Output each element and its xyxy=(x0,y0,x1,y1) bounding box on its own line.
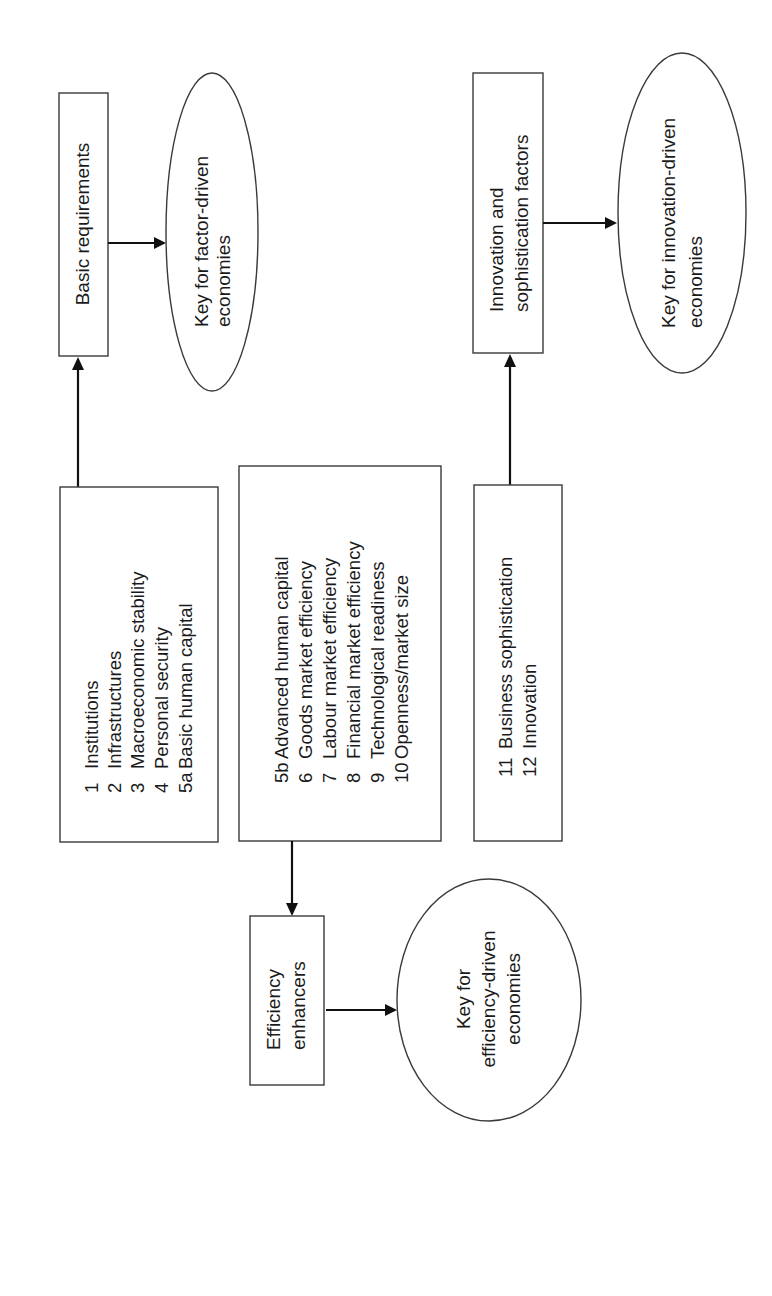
pillar-item: 11Business sophistication xyxy=(495,557,516,777)
pillar-item: 5aBasic human capital xyxy=(175,603,196,793)
arrow-innovation-to-innovation-driven xyxy=(543,217,617,229)
pillar-item: 9Technological readiness xyxy=(367,562,388,783)
innovation-sophistication-box: Innovation and sophistication factors xyxy=(473,73,543,353)
pillar-item: 6Goods market efficiency xyxy=(295,560,316,783)
pillar-item: 10Openness/market size xyxy=(391,575,412,783)
pillars-innovation-box: 11Business sophistication 12Innovation xyxy=(474,485,562,841)
pillar-item: 4Personal security xyxy=(151,626,172,793)
efficiency-driven-line-2: efficiency-driven xyxy=(478,931,499,1068)
innovation-driven-line-2: economies xyxy=(685,236,706,328)
efficiency-driven-line-3: economies xyxy=(503,953,524,1045)
efficiency-box-line-1: Efficiency xyxy=(263,969,284,1050)
basic-requirements-label: Basic requirements xyxy=(72,143,93,306)
pillar-item: 5bAdvanced human capital xyxy=(271,556,292,783)
pillar-item: 7Labour market efficiency xyxy=(319,557,340,783)
innovation-box-line-1: Innovation and xyxy=(486,187,507,312)
efficiency-enhancers-box: Efficiency enhancers xyxy=(250,916,324,1085)
innovation-driven-ellipse: Key for innovation-driven economies xyxy=(618,53,746,373)
pillars-basic-box: 1Institutions 2Infrastructures 3Macroeco… xyxy=(60,487,218,842)
arrow-pillars-11-12-to-innovation xyxy=(504,354,516,485)
pillar-item: 8Financial market efficiency xyxy=(343,541,364,783)
arrow-pillars-5b-10-to-efficiency xyxy=(286,841,298,916)
efficiency-box-line-2: enhancers xyxy=(288,961,309,1050)
efficiency-driven-ellipse: Key for efficiency-driven economies xyxy=(397,879,581,1121)
factor-driven-line-2: economies xyxy=(213,235,234,327)
innovation-driven-line-1: Key for innovation-driven xyxy=(658,118,679,328)
arrow-basic-to-factor-driven xyxy=(108,237,166,249)
factor-driven-ellipse: Key for factor-driven economies xyxy=(166,73,258,391)
arrow-efficiency-to-efficiency-driven xyxy=(326,1004,397,1016)
framework-diagram: Basic requirements Key for factor-driven… xyxy=(0,0,772,1296)
arrow-pillars-1-5a-to-basic xyxy=(72,357,84,487)
pillar-item: 3Macroeconomic stability xyxy=(127,571,148,793)
basic-requirements-box: Basic requirements xyxy=(59,93,108,356)
pillar-item: 12Innovation xyxy=(519,664,540,777)
factor-driven-line-1: Key for factor-driven xyxy=(191,156,212,327)
innovation-box-line-2: sophistication factors xyxy=(511,135,532,312)
efficiency-driven-line-1: Key for xyxy=(453,968,474,1029)
pillars-efficiency-box: 5bAdvanced human capital 6Goods market e… xyxy=(239,466,441,841)
